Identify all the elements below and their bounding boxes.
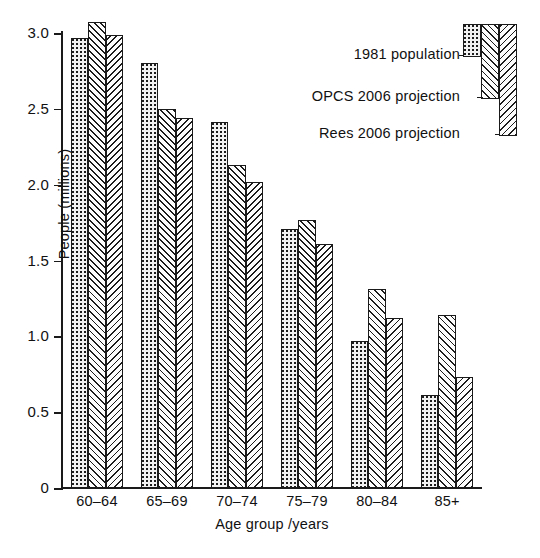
y-tick-label: 0: [40, 479, 49, 496]
legend-label-rees-2006-projection: Rees 2006 projection: [319, 125, 460, 141]
y-tick-mark: [54, 412, 61, 414]
y-tick-mark: [54, 185, 61, 187]
bar: [88, 22, 106, 488]
bar: [228, 165, 246, 488]
x-tick-label: 65–69: [132, 493, 202, 509]
y-tick-label: 3.0: [28, 24, 49, 41]
x-axis-label: Age group /years: [62, 516, 482, 532]
page-caption-fragment: [118, 549, 448, 556]
bar: [386, 318, 404, 488]
bar: [421, 395, 439, 488]
legend: 1981 population OPCS 2006 projection Ree…: [340, 24, 532, 142]
bar: [438, 315, 456, 488]
legend-swatch-dots: [463, 24, 481, 57]
y-tick-label: 1.0: [28, 327, 49, 344]
legend-label-opcs-2006-projection: OPCS 2006 projection: [312, 88, 460, 104]
legend-swatches: [463, 24, 519, 136]
y-tick-label: 1.5: [28, 252, 49, 269]
y-tick-mark: [54, 261, 61, 263]
x-tick-label: 85+: [412, 493, 482, 509]
bar: [298, 220, 316, 488]
bar: [176, 118, 194, 488]
bar-chart-figure: People (millions) 00.51.01.52.02.53.0 60…: [0, 0, 540, 558]
y-tick-label: 0.5: [28, 403, 49, 420]
legend-swatch-backward-diagonal: [499, 24, 517, 136]
bar: [141, 63, 159, 488]
bar: [281, 229, 299, 488]
x-tick-label: 80–84: [342, 493, 412, 509]
bar: [211, 122, 229, 488]
bar: [71, 38, 89, 488]
y-tick-label: 2.0: [28, 176, 49, 193]
bar: [368, 289, 386, 488]
y-tick-mark: [54, 488, 61, 490]
bar: [316, 244, 334, 488]
y-tick-label: 2.5: [28, 100, 49, 117]
bar: [106, 35, 124, 488]
bar: [456, 377, 474, 488]
y-tick-mark: [54, 336, 61, 338]
legend-swatch-forward-diagonal: [481, 24, 499, 99]
x-tick-label: 70–74: [202, 493, 272, 509]
legend-label-1981-population: 1981 population: [354, 46, 460, 62]
bar: [246, 182, 264, 488]
x-tick-label: 75–79: [272, 493, 342, 509]
y-tick-mark: [54, 109, 61, 111]
x-tick-label: 60–64: [62, 493, 132, 509]
bar: [158, 109, 176, 488]
y-tick-mark: [54, 33, 61, 35]
bar: [351, 341, 369, 488]
